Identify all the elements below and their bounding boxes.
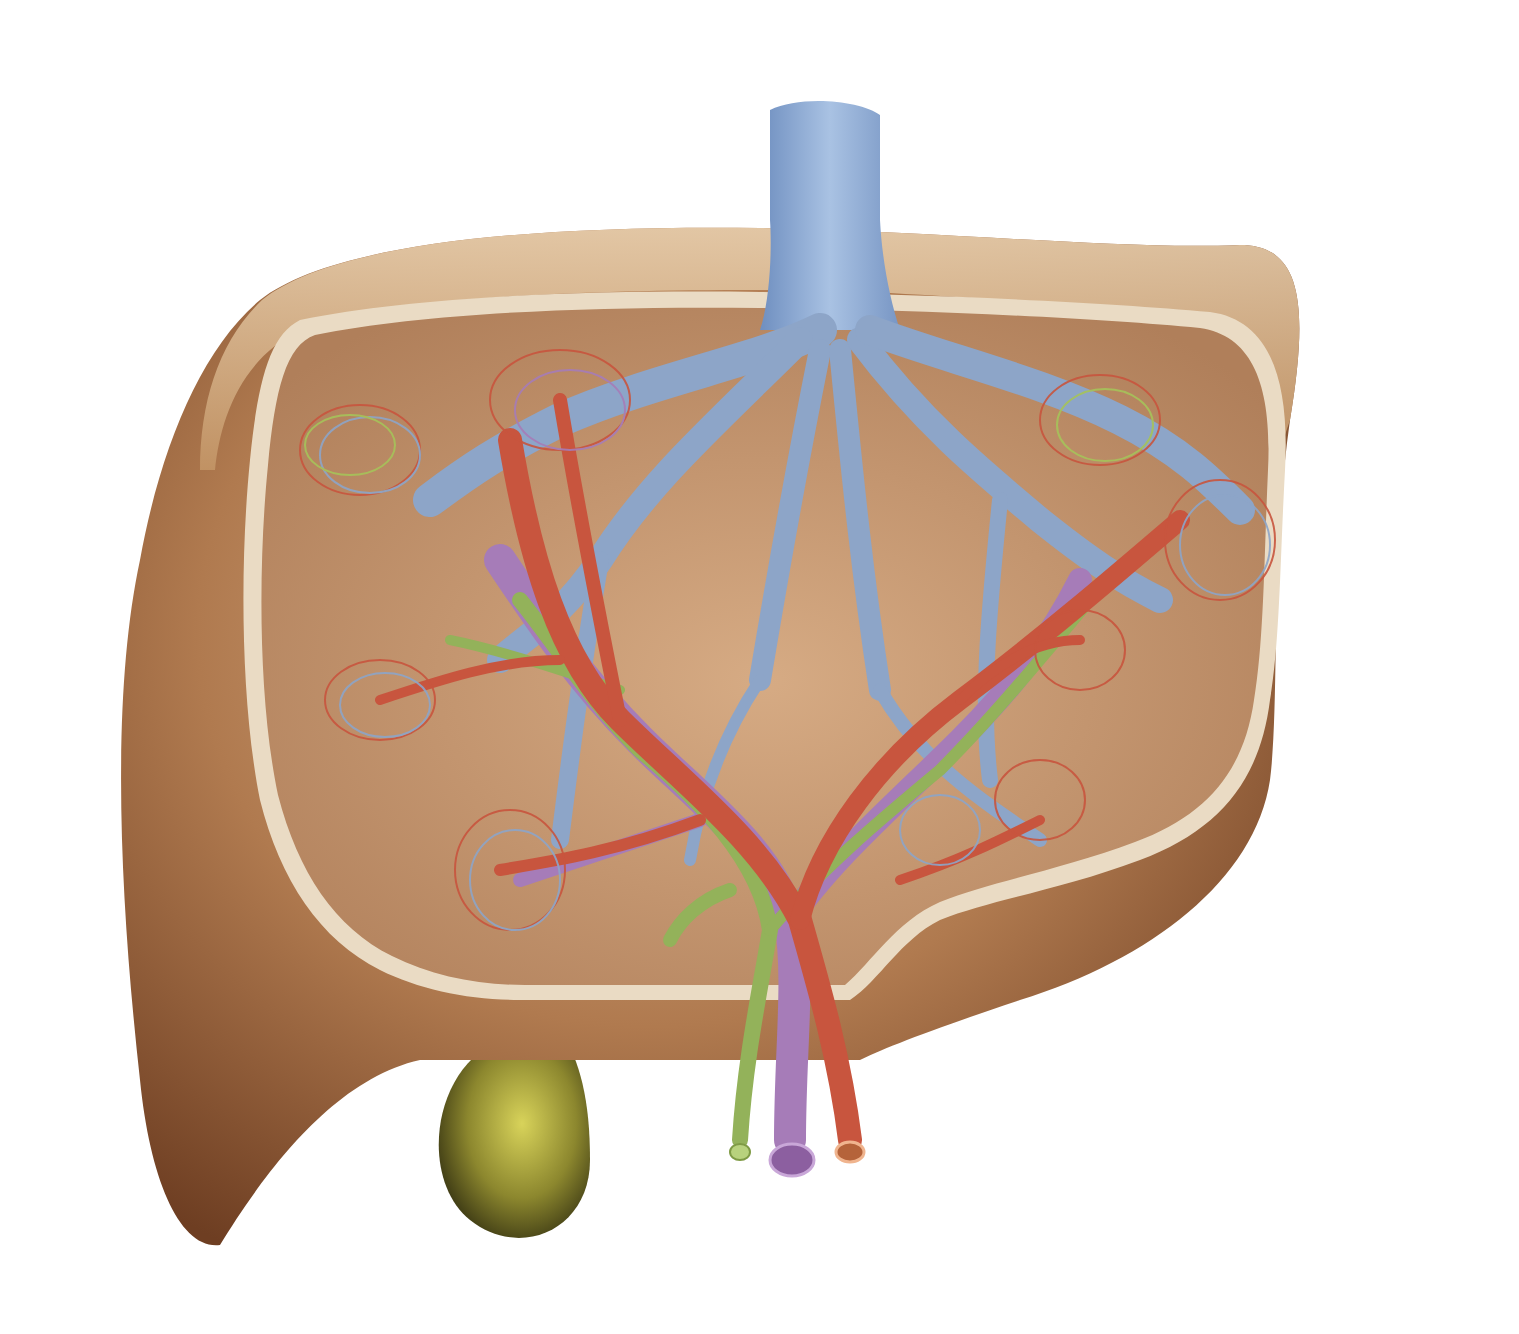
inferior-vena-cava — [760, 101, 900, 330]
gallbladder — [439, 1030, 590, 1238]
liver-diagram — [0, 0, 1519, 1334]
liver-illustration — [0, 0, 1519, 1334]
vessel-ends — [730, 1142, 864, 1176]
